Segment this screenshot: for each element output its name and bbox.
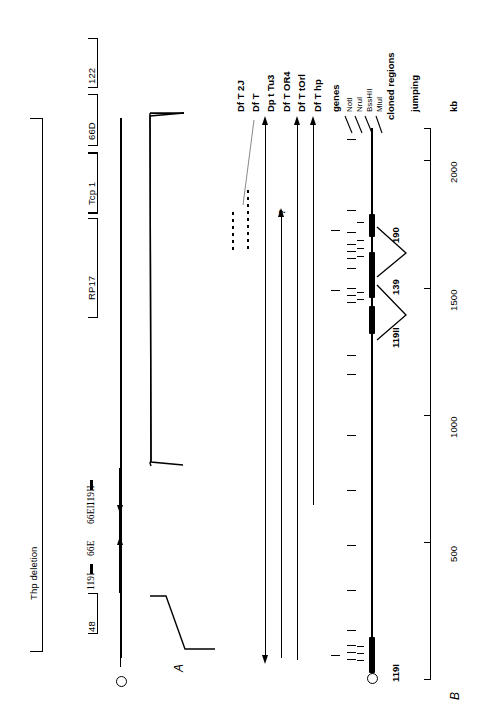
deletion-arrow-dfthp-shaft <box>313 125 314 505</box>
scale-tick-500 <box>424 542 431 543</box>
column-header-kb: kb <box>448 101 459 112</box>
thp-deletion-label: Thp deletion <box>28 547 39 601</box>
restriction-site-tick <box>357 256 364 257</box>
panelA-centromere-stem <box>120 658 121 667</box>
restriction-site-tick <box>357 653 364 654</box>
restriction-site-tick <box>357 248 364 249</box>
scale-axis-line <box>430 128 431 680</box>
enzyme-label-mlui: MluI <box>375 97 384 112</box>
enzyme-label-noti: NotI <box>345 97 354 112</box>
figure-canvas: Thp deletion RP17 Tcp 1 66D 122 48 119I … <box>0 0 486 722</box>
restriction-site-tick <box>357 222 364 223</box>
gene-tick <box>347 545 356 546</box>
enzyme-label-nrui: NruI <box>355 97 364 112</box>
cloned-region-label-190: 190 <box>390 227 401 243</box>
gene-tick <box>347 258 356 259</box>
panelA-inversion-arrow-down <box>117 505 123 514</box>
restriction-site-tick <box>357 299 364 300</box>
cloned-region-139 <box>369 252 375 298</box>
cloned-region-label-119ii: 119II <box>390 327 401 348</box>
gene-tick <box>347 645 356 646</box>
panelA-label: A <box>172 664 186 672</box>
gene-tick <box>347 232 356 233</box>
column-header-jumping: jumping <box>409 75 420 112</box>
scale-label-1500: 1500 <box>448 289 459 311</box>
marker-label-tcp1: Tcp 1 <box>86 182 97 205</box>
gene-tick <box>347 244 356 245</box>
gene-tick <box>347 268 356 269</box>
cloned-region-119i <box>369 637 375 673</box>
marker-label-122: 122 <box>86 68 97 84</box>
marker-label-rp17: RP17 <box>86 276 97 300</box>
panelA-centromere <box>116 676 127 687</box>
restriction-site-tick <box>357 240 364 241</box>
scale-label-1000: 1000 <box>448 416 459 438</box>
gene-tick <box>347 288 356 289</box>
deletion-arrow-dfttorl-head <box>294 116 300 125</box>
panelA-inversion-arrow-up <box>117 536 123 545</box>
gene-tick <box>347 490 356 491</box>
marker-label-66e: 66E <box>86 540 96 556</box>
gene-tick <box>347 295 356 296</box>
scale-label-500: 500 <box>448 546 459 562</box>
deletion-label-dfttorl: Df T tOrl <box>296 74 307 112</box>
marker-label-119ii: 119II <box>86 485 96 506</box>
deletion-arrow-dftor4-shaft <box>281 216 282 658</box>
gene-tick <box>347 139 356 140</box>
uncertainty-marker: ? <box>276 209 287 215</box>
gene-tick <box>347 210 356 211</box>
gene-tick <box>347 630 356 631</box>
marker-label-48: 48 <box>86 621 97 632</box>
deletion-arrow-dfthp-head <box>310 116 316 125</box>
panelB-centromere <box>367 673 378 684</box>
marker-bracket-rp17 <box>88 218 98 318</box>
gene-tick <box>331 230 340 231</box>
gene-tick <box>347 652 356 653</box>
panelB-map-line <box>371 128 373 678</box>
deletion-label-dft: Df T <box>250 94 261 112</box>
deletion-arrow-dfttorl-shaft <box>297 125 298 660</box>
deletion-bar-dft2j <box>232 212 234 252</box>
restriction-site-tick <box>357 660 364 661</box>
marker-label-66d: 66D <box>86 122 97 140</box>
scale-tick-1500 <box>424 288 431 289</box>
connector-upper-top <box>150 113 184 114</box>
gene-tick <box>331 655 340 656</box>
deletion-label-dfthp: Df T hp <box>312 79 323 112</box>
gene-tick <box>347 355 356 356</box>
panelA-inversion-segment <box>119 468 122 593</box>
scale-label-2000: 2000 <box>448 161 459 183</box>
deletion-label-dpttu3: Dp t Tu3 <box>265 75 276 112</box>
cloned-region-label-139: 139 <box>390 279 401 295</box>
scale-axis-start-cap <box>424 679 431 680</box>
deletion-label-dftor4: Df T OR4 <box>281 71 292 112</box>
deletion-arrow-dpttu3-tail <box>262 655 268 664</box>
cloned-region-label-119i: 119I <box>390 664 401 682</box>
gene-tick <box>347 374 356 375</box>
cloned-region-190 <box>369 214 375 237</box>
column-header-genes: genes <box>330 85 341 112</box>
deletion-label-dft2j: Df T 2J <box>235 80 246 112</box>
column-header-cloned-regions: cloned regions <box>385 52 396 120</box>
enzyme-label-bsshii: BssHII <box>365 88 374 112</box>
marker-label-119i: 119I <box>86 573 96 590</box>
cloned-region-119ii <box>369 306 375 334</box>
deletion-bar-dft <box>247 190 249 252</box>
scale-axis-end-cap <box>424 128 431 129</box>
gene-tick <box>331 290 340 291</box>
gene-tick <box>347 590 356 591</box>
deletion-arrow-dpttu3-shaft <box>265 125 266 660</box>
gene-tick <box>347 251 356 252</box>
restriction-site-tick <box>357 646 364 647</box>
restriction-site-tick <box>357 292 364 293</box>
gene-tick <box>347 302 356 303</box>
gene-tick <box>347 435 356 436</box>
scale-tick-1000 <box>424 415 431 416</box>
deletion-arrow-dpttu3-head <box>262 116 268 125</box>
panelB-label: B <box>448 692 462 700</box>
scale-tick-2000 <box>424 160 431 161</box>
gene-tick <box>347 659 356 660</box>
